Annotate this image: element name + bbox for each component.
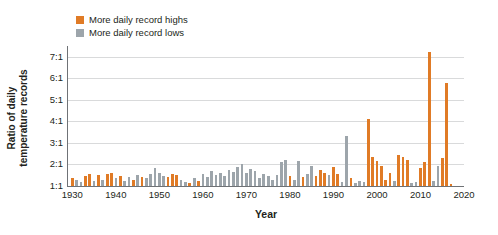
- bar-1993: [345, 136, 348, 186]
- bar-1984: [306, 174, 309, 186]
- x-tick-label: 2010: [410, 190, 431, 200]
- bar-1969: [241, 164, 244, 186]
- x-tick-label: 1970: [236, 190, 257, 200]
- bar-2006: [402, 157, 405, 186]
- x-tick-label: 1980: [279, 190, 300, 200]
- y-tick-label: 4:1: [50, 116, 63, 126]
- y-axis-title: Ratio of dailytemperature records: [0, 0, 36, 235]
- bar-1967: [232, 172, 235, 186]
- legend-swatch-lows: [76, 29, 84, 37]
- bar-1975: [267, 176, 270, 186]
- bar-2001: [380, 166, 383, 186]
- bar-1978: [280, 162, 283, 186]
- bar-1989: [328, 175, 331, 186]
- bar-1964: [219, 173, 222, 186]
- bar-1987: [319, 170, 322, 186]
- bar-1966: [228, 170, 231, 186]
- bar-1982: [297, 161, 300, 186]
- bar-2007: [406, 160, 409, 186]
- bar-1953: [171, 174, 174, 186]
- bar-2012: [428, 52, 431, 186]
- bar-2011: [423, 162, 426, 186]
- bar-1963: [215, 175, 218, 186]
- x-tick-label: 1950: [149, 190, 170, 200]
- bar-1933: [84, 176, 87, 186]
- chart-legend: More daily record highs More daily recor…: [76, 14, 188, 38]
- bar-1954: [175, 175, 178, 186]
- y-tick-label: 6:1: [50, 73, 63, 83]
- bar-1936: [97, 175, 100, 186]
- bar-1977: [276, 175, 279, 186]
- plot-frame: 1:12:13:14:15:16:17:1 193019401950196019…: [68, 46, 464, 186]
- bar-1965: [223, 176, 226, 186]
- bar-1934: [88, 174, 91, 186]
- legend-label-highs: More daily record highs: [89, 15, 188, 25]
- y-tick-label: 2:1: [50, 159, 63, 169]
- bar-2003: [389, 173, 392, 186]
- bar-2000: [376, 161, 379, 186]
- bar-1939: [110, 173, 113, 186]
- y-tick-label: 7:1: [50, 52, 63, 62]
- bar-1970: [245, 173, 248, 186]
- legend-item-highs: More daily record highs: [76, 14, 188, 25]
- bar-group: [68, 46, 464, 186]
- bar-1974: [262, 174, 265, 186]
- bar-2015: [441, 158, 444, 186]
- bar-1985: [310, 166, 313, 186]
- bar-1986: [315, 176, 318, 186]
- bar-1999: [371, 157, 374, 186]
- bar-1951: [162, 176, 165, 186]
- x-tick-label: 1990: [323, 190, 344, 200]
- y-axis-title-text: Ratio of dailytemperature records: [6, 69, 30, 166]
- chart-figure: More daily record highs More daily recor…: [0, 0, 498, 235]
- bar-1990: [332, 167, 335, 186]
- bar-2005: [397, 155, 400, 186]
- bar-2016: [445, 83, 448, 186]
- x-tick-label: 1960: [192, 190, 213, 200]
- x-axis-title: Year: [68, 208, 464, 220]
- legend-item-lows: More daily record lows: [76, 27, 188, 38]
- bar-1988: [323, 173, 326, 186]
- x-tick-label: 2000: [366, 190, 387, 200]
- bar-1950: [158, 173, 161, 186]
- bar-1938: [106, 174, 109, 186]
- bar-2014: [437, 166, 440, 186]
- bar-1980: [289, 176, 292, 186]
- bar-1945: [136, 175, 139, 186]
- bar-1968: [236, 167, 239, 186]
- x-tick-label: 1940: [105, 190, 126, 200]
- bar-1948: [149, 174, 152, 186]
- y-tick-label: 5:1: [50, 95, 63, 105]
- x-axis-line: [67, 186, 464, 187]
- bar-2010: [419, 168, 422, 186]
- bar-1991: [336, 174, 339, 186]
- y-axis-line: [67, 46, 68, 186]
- bar-1971: [249, 169, 252, 186]
- bar-1972: [254, 171, 257, 186]
- x-tick-label: 2020: [453, 190, 474, 200]
- bar-1949: [154, 168, 157, 186]
- legend-swatch-highs: [76, 16, 84, 24]
- bar-1962: [210, 171, 213, 186]
- legend-label-lows: More daily record lows: [89, 28, 184, 38]
- y-tick-label: 3:1: [50, 138, 63, 148]
- bar-1998: [367, 119, 370, 186]
- x-tick-label: 1930: [62, 190, 83, 200]
- bar-1941: [119, 176, 122, 186]
- bar-1960: [202, 174, 205, 186]
- bar-1979: [284, 160, 287, 186]
